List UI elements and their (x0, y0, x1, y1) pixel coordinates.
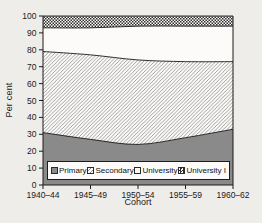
legend-label-university: University (142, 166, 177, 175)
x-tick-label: 1945–49 (74, 190, 107, 200)
y-tick-label: 10 (27, 163, 37, 173)
chart-legend: Primary Secondary University University … (47, 161, 230, 180)
x-tick-label: 1955–59 (169, 190, 202, 200)
legend-item-primary: Primary (51, 166, 87, 175)
x-axis-title: Cohort (124, 197, 151, 207)
y-tick-label: 0 (32, 180, 37, 190)
legend-item-university: University (134, 166, 177, 175)
legend-item-secondary: Secondary (87, 166, 133, 175)
y-tick-label: 60 (27, 79, 37, 89)
stacked-area-chart: 01020304050607080901001940–441945–491950… (0, 0, 262, 223)
university-swatch-icon (134, 167, 141, 174)
y-tick-label: 80 (27, 45, 37, 55)
y-tick-label: 40 (27, 112, 37, 122)
secondary-swatch-icon (87, 167, 94, 174)
legend-label-primary: Primary (59, 166, 87, 175)
y-tick-label: 90 (27, 28, 37, 38)
university-1-swatch-icon (178, 167, 185, 174)
plot-area (43, 16, 233, 185)
y-tick-label: 50 (27, 96, 37, 106)
y-axis-title: Per cent (4, 82, 14, 117)
cohort-education-figure: 01020304050607080901001940–441945–491950… (0, 0, 262, 223)
x-tick-label: 1960–62 (216, 190, 249, 200)
y-tick-label: 30 (27, 129, 37, 139)
y-tick-label: 70 (27, 62, 37, 72)
y-tick-label: 100 (22, 11, 36, 21)
legend-item-university-1: University I (178, 166, 226, 175)
x-tick-label: 1940–44 (26, 190, 59, 200)
legend-label-university-1: University I (186, 166, 226, 175)
primary-swatch-icon (51, 167, 58, 174)
y-tick-label: 20 (27, 146, 37, 156)
legend-label-secondary: Secondary (95, 166, 133, 175)
